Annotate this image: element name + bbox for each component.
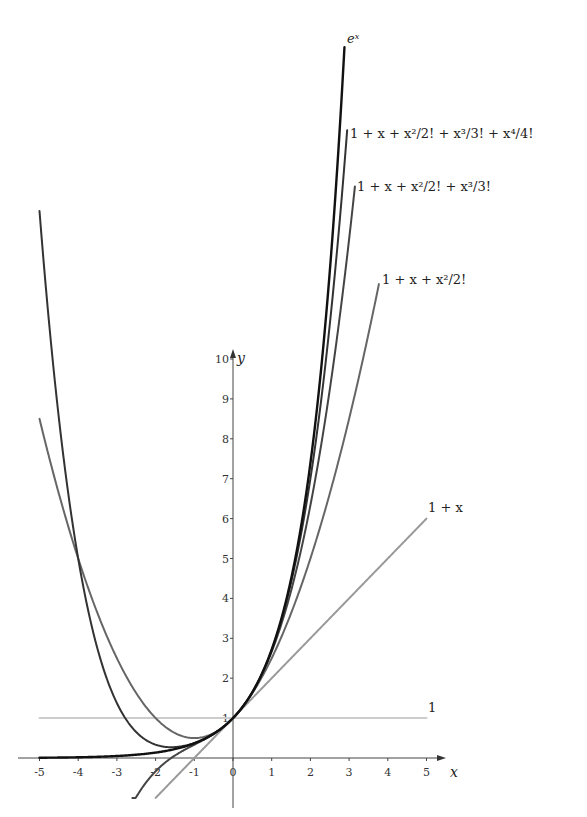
x-tick-label: 2 (307, 766, 314, 779)
x-tick-label: 1 (268, 766, 275, 779)
x-tick-label: 3 (346, 766, 353, 779)
x-tick-label: 5 (423, 766, 430, 779)
y-tick-label: 3 (222, 632, 229, 645)
x-tick-label: -1 (189, 766, 200, 779)
y-tick-label: 2 (222, 672, 229, 685)
series-label: 1 + x (428, 500, 463, 515)
series-line (156, 519, 427, 798)
x-tick-label: -5 (34, 766, 45, 779)
y-tick-label: 5 (222, 553, 229, 566)
series-label: 1 (428, 700, 436, 715)
y-tick-label: 8 (222, 433, 229, 446)
x-tick-label: -3 (112, 766, 123, 779)
series-line (40, 130, 348, 747)
taylor-series-chart: -5-4-3-2-101234512345678910xy eˣ1 + x + … (0, 0, 587, 817)
y-tick-label: 6 (222, 513, 229, 526)
y-axis-label: y (236, 350, 246, 366)
series-label: 1 + x + x²/2! (382, 272, 466, 287)
y-tick-label: 4 (222, 592, 229, 605)
y-tick-label: 10 (215, 353, 229, 366)
series-label: 1 + x + x²/2! + x³/3! (357, 179, 491, 194)
y-tick-label: 9 (222, 393, 229, 406)
y-tick-label: 7 (222, 473, 229, 486)
series-label: 1 + x + x²/2! + x³/3! + x⁴/4! (350, 126, 534, 141)
x-tick-label: 0 (230, 766, 237, 779)
y-axis-arrow-icon (230, 349, 236, 358)
x-tick-label: -4 (73, 766, 84, 779)
x-tick-label: 4 (384, 766, 391, 779)
series-label: eˣ (347, 31, 360, 46)
x-axis-arrow-icon (437, 755, 446, 761)
x-axis-label: x (450, 764, 458, 780)
curve-labels: eˣ1 + x + x²/2! + x³/3! + x⁴/4!1 + x + x… (347, 31, 534, 715)
series-line (40, 284, 379, 738)
